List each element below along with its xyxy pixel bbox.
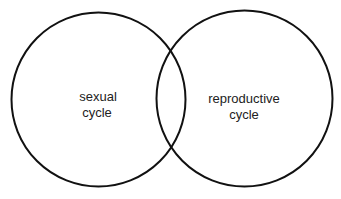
sexual-cycle-label-line2: cycle [82, 105, 112, 120]
reproductive-cycle-label-line2: cycle [229, 107, 259, 122]
sexual-cycle-label-line1: sexual [79, 89, 117, 104]
reproductive-cycle-label-line1: reproductive [208, 91, 280, 106]
set-sexual-cycle: sexual cycle [12, 13, 186, 187]
venn-diagram: sexual cycle reproductive cycle [0, 0, 341, 199]
set-reproductive-cycle: reproductive cycle [157, 11, 333, 187]
